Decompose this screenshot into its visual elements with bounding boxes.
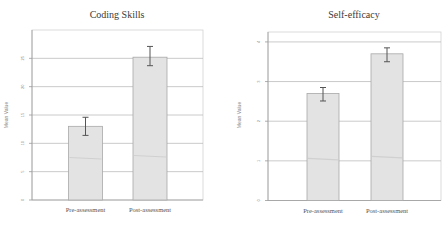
y-tick-label: 3 [256, 80, 261, 83]
y-tick-label: 2 [256, 119, 261, 122]
x-tick-label: Post-assessment [129, 206, 171, 213]
chart-title: Self-efficacy [328, 9, 379, 20]
y-axis-label: Mean Value [236, 102, 242, 129]
y-tick-label: 5 [20, 170, 25, 173]
y-tick-labels: 01234 [256, 40, 261, 202]
y-tick-label: 0 [20, 198, 25, 201]
x-tick-labels: Pre-assessmentPost-assessment [303, 207, 408, 214]
figure: Coding Skills Mean Value 0510152025 Pre-… [0, 0, 445, 231]
self-efficacy-chart: Self-efficacy Mean Value 01234 Pre-asses… [236, 9, 441, 214]
y-tick-label: 15 [20, 112, 25, 117]
bar-group [371, 48, 403, 201]
y-tick-labels: 0510152025 [20, 55, 25, 201]
bars [69, 46, 168, 200]
x-tick-label: Pre-assessment [303, 207, 343, 214]
bars [307, 48, 403, 201]
gridlines [265, 32, 441, 201]
chart-title: Coding Skills [90, 9, 145, 20]
x-tick-label: Pre-assessment [66, 206, 106, 213]
y-axis-label: Mean Value [3, 102, 9, 129]
bar [371, 54, 403, 201]
y-tick-label: 20 [20, 84, 25, 89]
y-tick-label: 0 [256, 199, 261, 202]
y-tick-label: 1 [256, 159, 261, 162]
x-tick-label: Post-assessment [366, 207, 408, 214]
bar [133, 57, 167, 200]
x-tick-labels: Pre-assessmentPost-assessment [66, 206, 172, 213]
y-tick-label: 25 [20, 55, 25, 60]
coding-skills-chart: Coding Skills Mean Value 0510152025 Pre-… [3, 9, 203, 213]
gridlines [29, 30, 203, 200]
bar [69, 126, 103, 200]
bar [307, 93, 339, 200]
bar-group [307, 88, 339, 201]
y-tick-label: 10 [20, 140, 25, 145]
bar-group [133, 46, 167, 200]
plot-frame [268, 32, 441, 201]
bar-group [69, 117, 103, 200]
y-tick-label: 4 [256, 40, 261, 43]
